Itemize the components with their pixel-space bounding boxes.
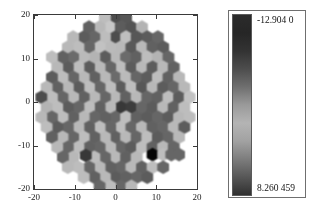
y-tick-mark [34, 146, 38, 147]
hexagon-map-canvas [34, 15, 197, 189]
y-tick-mark [34, 102, 38, 103]
y-tick-mark [193, 15, 197, 16]
y-tick-label: 0 [2, 97, 30, 106]
colorbar-min-label: 8.260 459 [257, 183, 295, 193]
x-tick-label: 0 [101, 193, 131, 202]
y-tick-label: 20 [2, 10, 30, 19]
y-tick-label: -20 [2, 184, 30, 193]
x-tick-mark [75, 15, 76, 19]
y-tick-mark [34, 15, 38, 16]
y-tick-mark [193, 146, 197, 147]
x-tick-mark [156, 185, 157, 189]
y-tick-mark [34, 59, 38, 60]
colorbar-panel: -12.904 0 8.260 459 [228, 10, 308, 200]
y-tick-label: -10 [2, 141, 30, 150]
x-tick-label: -10 [60, 193, 90, 202]
x-tick-mark [156, 15, 157, 19]
x-tick-mark [75, 185, 76, 189]
colorbar-gradient [233, 15, 251, 195]
x-tick-label: -20 [19, 193, 49, 202]
y-tick-mark [193, 102, 197, 103]
hexbin-plot-panel: -20-1001020 -20-1001020 [0, 0, 215, 215]
colorbar-frame: -12.904 0 8.260 459 [228, 10, 306, 198]
y-tick-label: 10 [2, 54, 30, 63]
y-tick-mark [193, 59, 197, 60]
x-tick-mark [116, 185, 117, 189]
x-tick-mark [116, 15, 117, 19]
x-tick-label: 10 [141, 193, 171, 202]
plot-axes-frame [33, 14, 198, 190]
y-tick-mark [193, 189, 197, 190]
x-tick-label: 20 [182, 193, 212, 202]
figure-root: -20-1001020 -20-1001020 -12.904 0 8.260 … [0, 0, 314, 215]
colorbar-strip [232, 14, 252, 196]
x-tick-mark [197, 185, 198, 189]
x-tick-mark [197, 15, 198, 19]
colorbar-max-label: -12.904 0 [257, 15, 293, 25]
y-tick-mark [34, 189, 38, 190]
